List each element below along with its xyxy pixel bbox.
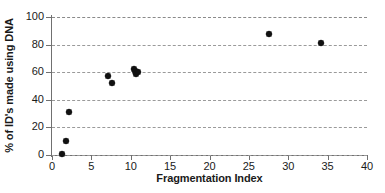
data-point [63, 138, 70, 145]
scatter-chart-figure: % of ID's made using DNA 020406080100 05… [0, 0, 385, 193]
gridline-y-40 [52, 100, 367, 101]
x-tick-label-15: 15 [155, 161, 185, 172]
plot-area [52, 17, 367, 155]
y-tick-label-80: 80 [14, 39, 44, 50]
x-tick-label-25: 25 [234, 161, 264, 172]
x-tick-label-0: 0 [37, 161, 67, 172]
y-axis-title: % of ID's made using DNA [2, 8, 16, 163]
x-axis-title: Fragmentation Index [52, 172, 367, 184]
data-point [59, 151, 66, 158]
data-point [134, 68, 141, 75]
x-tick-label-35: 35 [313, 161, 343, 172]
x-tick-label-10: 10 [116, 161, 146, 172]
gridline-y-60 [52, 72, 367, 73]
x-tick-label-20: 20 [195, 161, 225, 172]
gridline-y-100 [52, 17, 367, 18]
data-point [104, 72, 111, 79]
y-tick-label-20: 20 [14, 121, 44, 132]
y-tick-label-100: 100 [14, 11, 44, 22]
x-tick-label-30: 30 [273, 161, 303, 172]
x-tick-label-40: 40 [352, 161, 382, 172]
x-tick-label-5: 5 [76, 161, 106, 172]
data-point [108, 80, 115, 87]
y-tick-label-40: 40 [14, 94, 44, 105]
y-tick-label-60: 60 [14, 66, 44, 77]
data-point [266, 30, 273, 37]
y-tick-label-0: 0 [14, 149, 44, 160]
gridline-y-0 [52, 155, 367, 156]
gridline-y-20 [52, 127, 367, 128]
data-point [65, 109, 72, 116]
